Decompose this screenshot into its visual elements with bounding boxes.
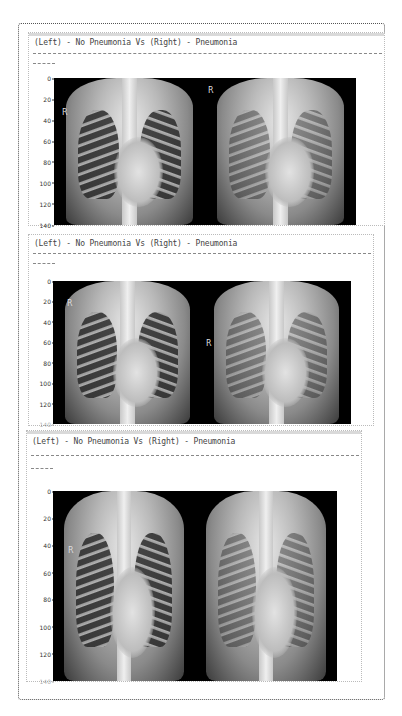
y-tick: 120: [40, 650, 51, 657]
panel-top-bar: [29, 33, 384, 36]
panel-top-bar: [27, 431, 361, 434]
radiograph-marker: R: [62, 108, 68, 117]
y-tick: 60: [43, 138, 51, 145]
y-tick: 100: [40, 623, 51, 630]
y-tick: 80: [43, 359, 51, 366]
output-panel-3: (Left) - No Pneumonia Vs (Right) - Pneum…: [26, 430, 362, 682]
panel-title: (Left) - No Pneumonia Vs (Right) - Pneum…: [34, 239, 237, 248]
y-tick: 40: [43, 117, 51, 124]
y-tick: 20: [43, 96, 51, 103]
y-tick: 80: [43, 596, 51, 603]
y-tick: 0: [47, 488, 51, 495]
separator-long: [33, 53, 382, 54]
xray-pneumonia: R: [205, 78, 356, 225]
separator-long: [33, 253, 371, 254]
y-tick: 60: [43, 339, 51, 346]
y-tick: 40: [43, 542, 51, 549]
output-panel-1: (Left) - No Pneumonia Vs (Right) - Pneum…: [28, 32, 385, 226]
xray-pneumonia: R: [202, 281, 351, 424]
y-tick: 20: [43, 298, 51, 305]
y-tick: 20: [43, 515, 51, 522]
xray-normal: R: [54, 78, 205, 225]
y-tick: 140: [40, 222, 51, 229]
radiograph-marker: R: [67, 299, 73, 308]
xray-comparison-image: R: [53, 491, 337, 681]
separator-short: [33, 63, 55, 64]
y-tick: 60: [43, 569, 51, 576]
y-tick: 140: [40, 421, 51, 428]
xray-normal: R: [53, 281, 202, 424]
xray-comparison-image: R R: [53, 281, 351, 424]
output-panel-2: (Left) - No Pneumonia Vs (Right) - Pneum…: [28, 234, 374, 426]
radiograph-marker: R: [68, 546, 74, 555]
xray-pneumonia: [195, 491, 337, 681]
y-axis: 0 20 40 60 80 100 120 140: [29, 78, 53, 225]
y-axis: 0 20 40 60 80 100 120 140: [29, 491, 53, 681]
separator-long: [31, 455, 359, 456]
y-tick: 80: [43, 158, 51, 165]
y-tick: 100: [40, 380, 51, 387]
separator-short: [31, 468, 53, 469]
y-axis: 0 20 40 60 80 100 120 140: [29, 281, 53, 424]
y-tick: 100: [40, 179, 51, 186]
y-tick: 0: [47, 75, 51, 82]
y-tick: 120: [40, 200, 51, 207]
panel-title: (Left) - No Pneumonia Vs (Right) - Pneum…: [34, 38, 237, 47]
separator-short: [33, 263, 55, 264]
y-tick: 0: [47, 278, 51, 285]
y-tick: 140: [40, 678, 51, 685]
xray-comparison-image: R R: [54, 78, 356, 225]
radiograph-marker: R: [208, 86, 214, 95]
radiograph-marker: R: [206, 339, 212, 348]
y-tick: 120: [40, 400, 51, 407]
panel-title: (Left) - No Pneumonia Vs (Right) - Pneum…: [32, 437, 235, 446]
xray-normal: R: [53, 491, 195, 681]
y-tick: 40: [43, 318, 51, 325]
